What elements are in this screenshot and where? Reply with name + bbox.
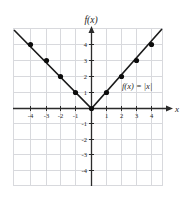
graph-canvas: -4 -3 -2 -1 1 2 3 4 4 3 2 1 -1 -2 -3 -4 [0,0,188,215]
data-point [89,106,94,111]
x-tick-label: -1 [73,112,78,119]
y-tick-label: -4 [82,167,88,174]
equation-annotation: f(x) = |x| [122,81,152,91]
x-tick-label: 2 [120,112,123,119]
data-point [104,90,109,95]
data-point [44,58,49,63]
data-point [28,42,33,47]
absolute-value-graph-figure: -4 -3 -2 -1 1 2 3 4 4 3 2 1 -1 -2 -3 -4 [0,0,188,215]
data-point [73,90,78,95]
data-point [58,74,63,79]
x-tick-label: -3 [44,112,49,119]
x-axis-arrow [166,106,173,112]
y-tick-label: 2 [84,73,87,80]
data-point [134,58,139,63]
y-tick-label: -1 [82,120,87,127]
y-axis-title: f(x) [84,15,97,26]
x-axis-title: x [174,104,179,114]
y-tick-label: 1 [84,89,87,96]
data-point [119,74,124,79]
y-tick-label: -2 [82,136,87,143]
x-tick-label: 1 [105,112,108,119]
data-point [149,42,154,47]
x-tick-label: -4 [28,112,34,119]
x-tick-label: 3 [135,112,138,119]
y-tick-label: 3 [84,57,87,64]
y-tick-label: -3 [82,151,87,158]
x-tick-label: -2 [58,112,63,119]
